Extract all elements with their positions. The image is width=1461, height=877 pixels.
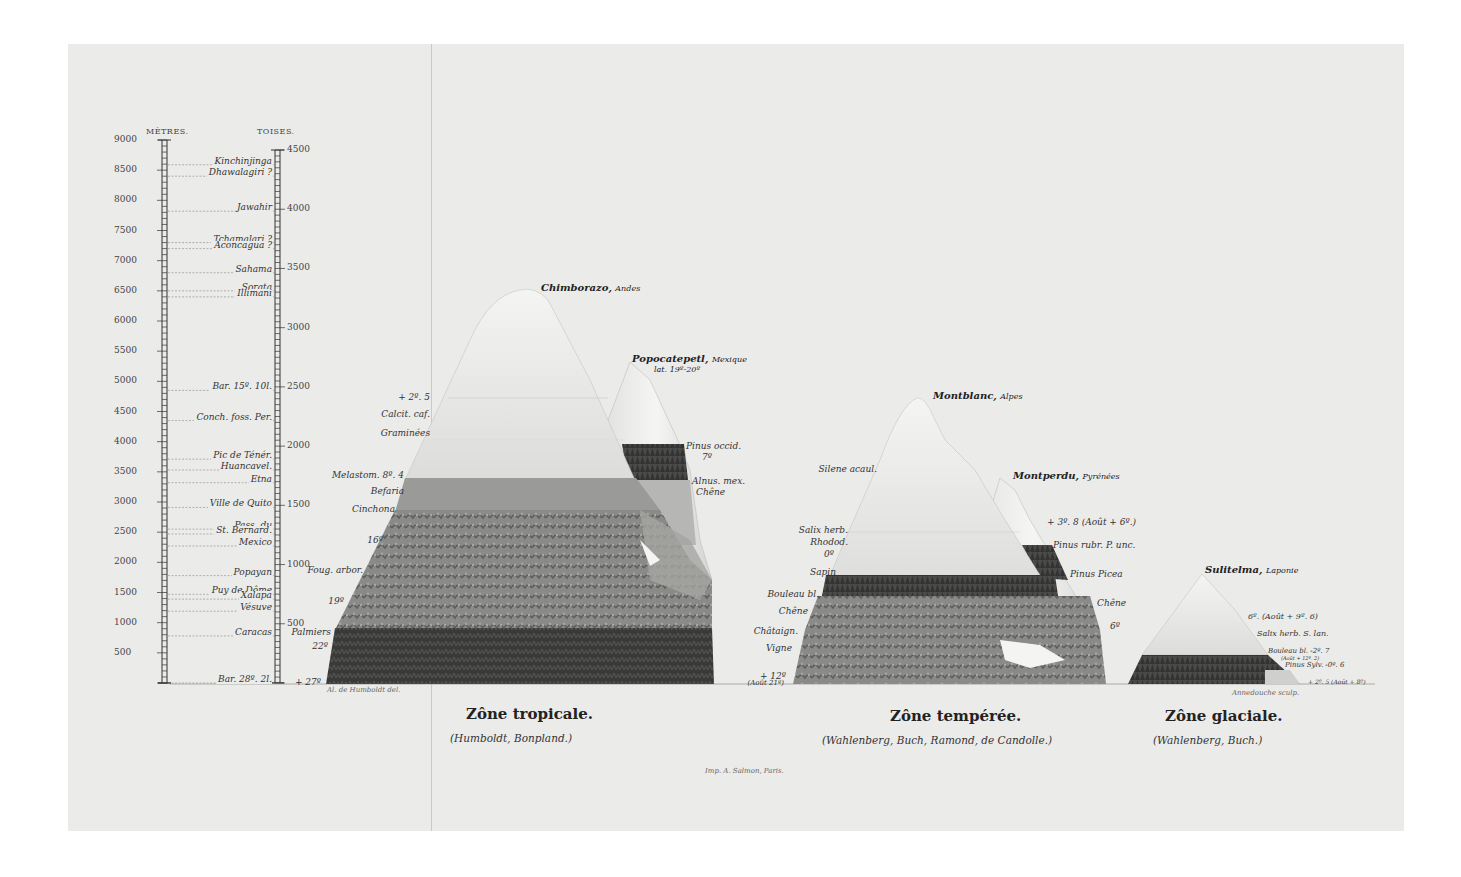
tropical-label: Befaria: [371, 487, 404, 496]
toises-tick-label: 2000: [287, 441, 310, 450]
glacial-right-label: Bouleau bl. -2º. 7: [1268, 648, 1329, 655]
tropical-label: Cinchona: [352, 505, 395, 514]
metres-tick-label: 3000: [114, 497, 137, 506]
zone-title-glacial: Zône glaciale.: [1165, 707, 1283, 725]
metres-header: MÈTRES.: [146, 127, 188, 136]
metres-tick-label: 2500: [114, 527, 137, 536]
reference-height-label: Popayan: [232, 568, 272, 577]
reference-height-label: Mexico: [237, 538, 272, 547]
reference-height-label: Bar. 15º. 10l.: [210, 382, 272, 391]
temperate-right-label: 6º: [1110, 622, 1120, 631]
temperate-label: Sapin: [810, 568, 836, 577]
zone-authors-temperate: (Wahlenberg, Buch, Ramond, de Candolle.): [822, 734, 1052, 746]
temperate-right-label: Chêne: [1097, 599, 1126, 608]
glacial-right-label: 6º. (Août + 9º. 6): [1248, 613, 1318, 621]
temperate-right-label: + 3º. 8 (Août + 6º.): [1047, 518, 1136, 527]
metres-tick-label: 4000: [114, 437, 137, 446]
tropical-label: + 2º. 5: [398, 393, 430, 402]
reference-height-label: Ville de Quito: [208, 499, 272, 508]
tropical-right-label: Alnus. mex.: [692, 477, 745, 486]
glacial-right-label: + 2º. 5 (Août + 8º): [1308, 679, 1366, 685]
toises-tick-label: 2500: [287, 382, 310, 391]
peak-label-chimborazo: Chimborazo, Andes: [541, 283, 640, 293]
reference-height-label: Conch. foss. Per.: [194, 413, 272, 422]
tropical-right-label: 7º: [702, 453, 712, 462]
tropical-right-label: Pinus occid.: [686, 442, 741, 451]
reference-height-label: Huancavel.: [219, 462, 272, 471]
temperate-label: Salix herb.: [799, 526, 848, 535]
credit-engraver: Annedouche sculp.: [1232, 689, 1299, 697]
temperate-label: Rhodod.: [810, 538, 848, 547]
glacial-right-label: Pinus Sylv. -0º. 6: [1285, 662, 1344, 669]
reference-height-label: Sahama: [233, 265, 272, 274]
metres-tick-label: 500: [114, 648, 131, 657]
zone-title-temperate: Zône tempérée.: [890, 707, 1021, 725]
reference-height-label: Caracas: [233, 628, 272, 637]
temperate-label: 0º: [824, 550, 834, 559]
temperate-label: (Août 21º): [748, 680, 784, 687]
reference-height-label: Jawahir: [235, 203, 272, 212]
metres-tick-label: 6500: [114, 286, 137, 295]
reference-height-label: Pic de Ténér.: [211, 451, 272, 460]
toises-tick-label: 4500: [287, 145, 310, 154]
reference-height-label: Vésuve: [238, 603, 272, 612]
temperate-label: Vigne: [766, 644, 792, 653]
metres-tick-label: 5500: [114, 346, 137, 355]
tropical-label: 22º: [312, 642, 328, 651]
reference-height-label: St. Bernard.: [214, 526, 272, 535]
metres-tick-label: 7000: [114, 256, 137, 265]
tropical-label: Calcit. caf.: [381, 410, 430, 419]
peak-label-montperdu: Montperdu, Pyrénées: [1013, 471, 1120, 481]
metres-tick-label: 6000: [114, 316, 137, 325]
metres-tick-label: 1000: [114, 618, 137, 627]
metres-tick-label: 8500: [114, 165, 137, 174]
metres-tick-label: 2000: [114, 557, 137, 566]
peak-label-popocatepetl: Popocatepetl, Mexiquelat. 19º-20º: [632, 354, 747, 374]
temperate-right-label: Pinus Picea: [1070, 570, 1123, 579]
reference-height-label: Aconcagua ?: [212, 241, 272, 250]
tropical-right-label: Chêne: [696, 488, 725, 497]
zone-authors-glacial: (Wahlenberg, Buch.): [1153, 734, 1262, 746]
temperate-label: Châtaign.: [754, 627, 798, 636]
tropical-label: 16º: [367, 536, 383, 545]
zone-authors-tropical: (Humboldt, Bonpland.): [450, 732, 572, 744]
toises-tick-label: 3000: [287, 323, 310, 332]
tropical-label: Graminées: [381, 429, 430, 438]
reference-height-label: Kinchinjinga: [212, 157, 272, 166]
reference-height-label: Etna: [249, 475, 272, 484]
glacial-right-label: Salix herb. S. lan.: [1257, 630, 1329, 638]
reference-height-label: Xalapa: [239, 591, 272, 600]
tropical-label: Palmiers: [291, 628, 331, 637]
toises-tick-label: 1500: [287, 500, 310, 509]
metres-tick-label: 4500: [114, 407, 137, 416]
toises-tick-label: 3500: [287, 263, 310, 272]
reference-height-label: Dhawalagiri ?: [207, 168, 272, 177]
credit-printer: Imp. A. Salmon, Paris.: [705, 767, 784, 775]
reference-height-label: Illimani: [235, 289, 272, 298]
peak-label-sulitelma: Sulitelma, Laponie: [1205, 565, 1298, 575]
credit-delineator: Al. de Humboldt del.: [327, 686, 400, 694]
toises-tick-label: 4000: [287, 204, 310, 213]
tropical-label: Melastom. 8º. 4: [332, 471, 404, 480]
reference-height-label: Bar. 28º. 2l.: [216, 675, 272, 684]
tropical-label: Foug. arbor.: [308, 566, 363, 575]
metres-tick-label: 9000: [114, 135, 137, 144]
toises-tick-label: 1000: [287, 560, 310, 569]
metres-tick-label: 7500: [114, 226, 137, 235]
metres-tick-label: 3500: [114, 467, 137, 476]
metres-tick-label: 5000: [114, 376, 137, 385]
metres-tick-label: 8000: [114, 195, 137, 204]
zone-title-tropical: Zône tropicale.: [466, 705, 593, 723]
tropical-label: 19º: [328, 597, 344, 606]
toises-header: TOISES.: [257, 127, 295, 136]
temperate-right-label: Pinus rubr. P. unc.: [1053, 541, 1135, 550]
temperate-label: Chêne: [779, 607, 808, 616]
temperate-label: Bouleau bl.: [767, 590, 819, 599]
temperate-label: Silene acaul.: [818, 465, 877, 474]
tropical-label: + 27º: [295, 678, 321, 687]
metres-tick-label: 1500: [114, 588, 137, 597]
peak-label-montblanc: Montblanc, Alpes: [933, 391, 1023, 401]
